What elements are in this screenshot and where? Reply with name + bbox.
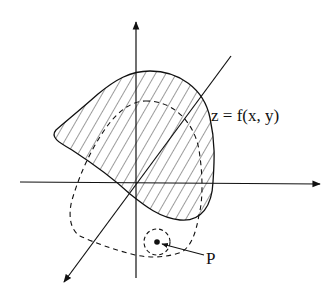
- surface-hatching: [40, 60, 230, 230]
- surface-diagram: z = f(x, y) P: [0, 0, 336, 296]
- point-p-label: P: [206, 249, 215, 268]
- surface-label: z = f(x, y): [211, 106, 279, 125]
- diagram-canvas: z = f(x, y) P: [0, 0, 336, 296]
- point-p-dot: [154, 239, 160, 245]
- point-p-pointer-arrow: [162, 244, 204, 255]
